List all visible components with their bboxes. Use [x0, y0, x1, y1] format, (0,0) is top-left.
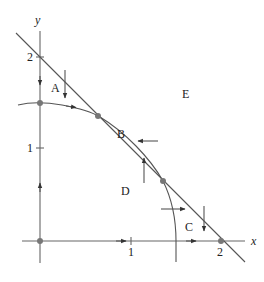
equilibrium-y-axis	[37, 100, 43, 106]
x-tick-label-2: 2	[217, 245, 223, 259]
x-tick-label-1: 1	[128, 245, 134, 259]
curve-right-arrow	[66, 106, 76, 108]
line-nullcline	[16, 33, 245, 262]
equilibrium-origin	[37, 238, 43, 244]
y-tick-label-2: 2	[27, 50, 33, 64]
region-label-a: A	[51, 81, 60, 95]
x-axis-label: x	[250, 234, 257, 248]
arc-nullcline	[18, 103, 176, 262]
region-label-c: C	[185, 220, 193, 234]
equilibrium-upper-intersection	[95, 113, 101, 119]
equilibrium-x-axis	[218, 238, 224, 244]
equilibrium-lower-intersection	[160, 178, 166, 184]
phase-plane-diagram: y x 2 1 1 2 A B C D E	[0, 0, 264, 282]
region-label-d: D	[121, 184, 130, 198]
y-tick-label-1: 1	[27, 141, 33, 155]
region-label-b: B	[117, 127, 125, 141]
y-axis-label: y	[34, 13, 41, 27]
region-label-e: E	[182, 87, 189, 101]
